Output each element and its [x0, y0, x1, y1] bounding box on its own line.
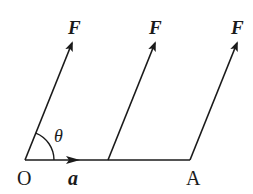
point-O-label: O: [17, 167, 31, 189]
point-A-label: A: [186, 167, 201, 189]
force-label-3: F: [230, 17, 244, 38]
force-label-2: F: [148, 17, 162, 38]
displacement-a-label: a: [68, 167, 78, 189]
force-vector-3: [190, 43, 237, 160]
force-vector-2: [108, 43, 155, 160]
angle-theta-label: θ: [54, 126, 63, 146]
force-displacement-diagram: F F F θ O a A: [0, 0, 253, 194]
angle-arc: [36, 133, 54, 160]
diagram-canvas: F F F θ O a A: [0, 0, 253, 194]
force-label-1: F: [67, 17, 81, 38]
